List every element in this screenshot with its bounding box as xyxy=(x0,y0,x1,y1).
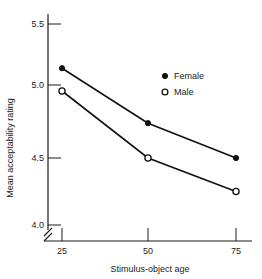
y-tick-label-5.5: 5.5 xyxy=(31,19,44,29)
series-markers-female xyxy=(59,66,238,161)
legend-marker-female xyxy=(162,73,167,78)
y-tick-label-4.5: 4.5 xyxy=(31,153,44,163)
x-tick-label-75: 75 xyxy=(231,246,241,256)
x-tick-label-50: 50 xyxy=(143,246,153,256)
data-point-male-25 xyxy=(59,88,65,94)
data-point-male-50 xyxy=(145,155,151,161)
chart-container: Mean acceptability rating 5.5 5.0 4.5 4.… xyxy=(0,0,262,279)
legend: Female Male xyxy=(162,71,204,97)
x-axis-title: Stimulus-object age xyxy=(110,264,189,274)
series-markers-male xyxy=(59,88,239,195)
y-tick-label-5.0: 5.0 xyxy=(31,80,44,90)
data-point-male-75 xyxy=(233,188,239,194)
line-chart: Mean acceptability rating 5.5 5.0 4.5 4.… xyxy=(0,0,262,279)
y-axis-title: Mean acceptability rating xyxy=(5,98,15,198)
data-point-female-75 xyxy=(233,155,238,160)
data-point-female-25 xyxy=(59,66,64,71)
data-point-female-50 xyxy=(145,121,150,126)
series-line-female xyxy=(62,68,236,158)
legend-label-female: Female xyxy=(174,71,204,81)
y-tick-label-4.0: 4.0 xyxy=(31,220,44,230)
series-line-male xyxy=(62,91,236,192)
legend-marker-male xyxy=(162,89,168,95)
legend-label-male: Male xyxy=(174,87,194,97)
x-tick-label-25: 25 xyxy=(57,246,67,256)
